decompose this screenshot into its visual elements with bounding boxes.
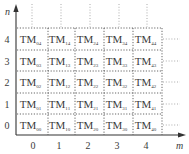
grid-cell-label: TM33: [106, 55, 128, 68]
x-tick-label: 2: [86, 140, 91, 151]
grid-cell-label: TM41: [135, 98, 157, 111]
grid-cell-label: TM20: [77, 119, 99, 132]
x-tick-label: 3: [115, 140, 120, 151]
grid-cell-label: TM14: [49, 33, 71, 46]
y-tick-label: 2: [5, 77, 10, 88]
grid-cell-label: TM34: [106, 33, 128, 46]
x-axis-label: m: [176, 140, 183, 151]
y-tick-label: 0: [5, 120, 10, 131]
y-axis-arrow-icon: [13, 4, 18, 12]
grid-cell-label: TM30: [106, 119, 128, 132]
y-tick-label: 1: [5, 99, 10, 110]
grid-cell-label: TM40: [135, 119, 157, 132]
grid-cell-label: TM23: [77, 55, 99, 68]
y-tick-label: 3: [5, 56, 10, 67]
grid-cell-label: TM22: [77, 76, 99, 89]
x-tick-labels: 01234: [31, 140, 149, 151]
x-axis-arrow-icon: [178, 132, 186, 137]
grid-cell-label: TM00: [20, 119, 42, 132]
diagram-canvas: n m 01234 43210 TM04TM14TM24TM34TM44TM03…: [0, 0, 189, 154]
grid-cell-label: TM21: [77, 98, 99, 111]
grid-cell-label: TM44: [135, 33, 157, 46]
grid-cell-label: TM31: [106, 98, 128, 111]
grid-cell-label: TM11: [49, 98, 71, 111]
grid-cell-label: TM01: [20, 98, 42, 111]
grid-cell-label: TM42: [135, 76, 157, 89]
x-tick-label: 1: [57, 140, 62, 151]
grid-cell-label: TM04: [20, 33, 42, 46]
y-tick-label: 4: [5, 34, 10, 45]
grid-cell-label: TM12: [49, 76, 71, 89]
mode-grid-diagram: n m 01234 43210 TM04TM14TM24TM34TM44TM03…: [0, 0, 189, 154]
y-axis-label: n: [5, 6, 10, 17]
grid-cell-label: TM24: [77, 33, 99, 46]
grid-cell-label: TM32: [106, 76, 128, 89]
grid-cells: TM04TM14TM24TM34TM44TM03TM13TM23TM33TM43…: [20, 33, 157, 132]
rightward-extension-lines: [163, 39, 180, 125]
grid-cell-label: TM03: [20, 55, 42, 68]
grid-cell-label: TM10: [49, 119, 71, 132]
grid-cell-label: TM13: [49, 55, 71, 68]
grid-cell-label: TM02: [20, 76, 42, 89]
grid-cell-label: TM43: [135, 55, 157, 68]
x-tick-label: 4: [144, 140, 149, 151]
upward-extension-lines: [32, 4, 147, 27]
x-tick-label: 0: [31, 140, 36, 151]
y-tick-labels: 43210: [5, 34, 10, 131]
